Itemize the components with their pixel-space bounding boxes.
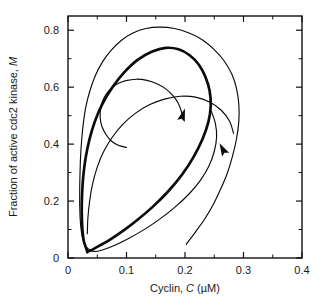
y-tick-label: 0.8 [44,24,59,36]
x-tick-label: 0.1 [119,264,134,276]
x-tick-label: 0.4 [294,264,309,276]
y-tick-label: 0 [53,252,59,264]
chart-canvas: 00.10.20.30.400.20.40.60.8 Cyclin, C (µM… [0,0,323,306]
curve-outer-trajectory-spiraling-inward [80,27,239,251]
y-tick-label: 0.6 [44,81,59,93]
arrow-head-outer-trajectory-spiraling-inward [216,141,229,156]
data-curves [80,27,239,252]
y-tick-label: 0.4 [44,138,59,150]
x-tick-label: 0 [65,264,71,276]
curve-limit-cycle [82,48,211,253]
y-axis-title: Fraction of active cdc2 kinase, M [7,56,19,217]
phase-plane-figure: 00.10.20.30.400.20.40.60.8 Cyclin, C (µM… [0,0,323,306]
x-axis-title: Cyclin, C (µM) [150,282,220,294]
arrow-head-inner-trajectory-spiraling-outward [177,107,189,122]
flow-direction-arrows [177,107,229,156]
curve-inner-trajectory-lower-tail [87,96,233,234]
x-tick-label: 0.3 [236,264,251,276]
y-tick-label: 0.2 [44,195,59,207]
x-tick-label: 0.2 [177,264,192,276]
